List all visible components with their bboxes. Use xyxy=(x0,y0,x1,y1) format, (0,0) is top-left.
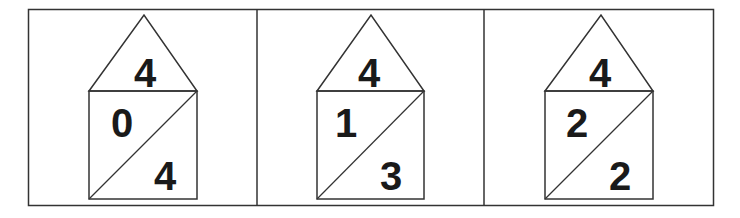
left-part-number: 2 xyxy=(566,101,588,145)
house-panel-2: 4 1 3 xyxy=(317,15,424,199)
roof-number: 4 xyxy=(358,51,381,95)
right-part-number: 4 xyxy=(154,154,177,198)
left-part-number: 1 xyxy=(335,101,357,145)
right-part-number: 2 xyxy=(609,154,631,198)
house-panel-3: 4 2 2 xyxy=(545,15,653,199)
house-panel-1: 4 0 4 xyxy=(89,15,197,199)
left-part-number: 0 xyxy=(111,101,133,145)
diagonal-split xyxy=(89,91,197,199)
diagonal-split xyxy=(317,91,424,199)
diagonal-split xyxy=(545,91,653,199)
right-part-number: 3 xyxy=(380,154,402,198)
roof-number: 4 xyxy=(134,51,157,95)
number-bond-diagram: 4 0 4 4 1 3 4 2 2 xyxy=(0,0,740,218)
roof-number: 4 xyxy=(589,51,612,95)
